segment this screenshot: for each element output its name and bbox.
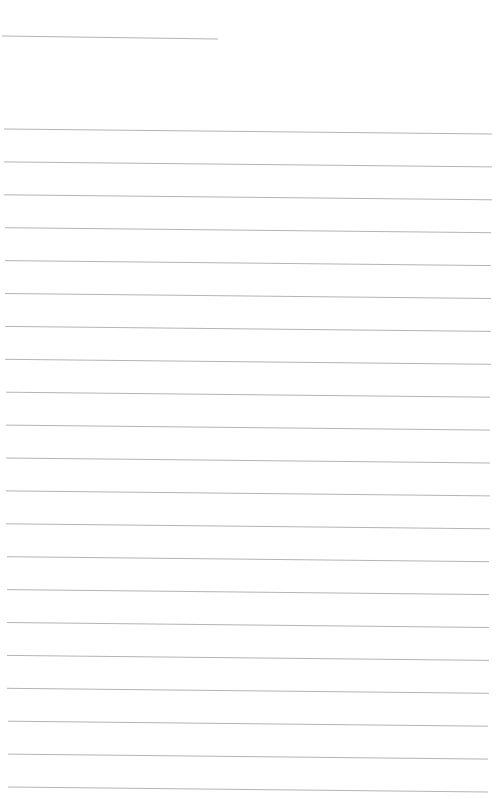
ruled-line bbox=[7, 623, 489, 628]
ruled-line bbox=[4, 162, 492, 167]
ruled-line bbox=[4, 195, 492, 200]
ruled-line bbox=[6, 392, 490, 397]
ruled-line bbox=[6, 491, 490, 496]
ruled-line bbox=[8, 754, 488, 759]
lined-paper-page bbox=[0, 0, 498, 799]
ruled-line bbox=[5, 228, 491, 233]
ruled-line bbox=[5, 261, 491, 266]
ruled-lines bbox=[0, 0, 498, 799]
ruled-line bbox=[8, 787, 488, 792]
ruled-line bbox=[6, 524, 490, 529]
ruled-line bbox=[6, 425, 490, 430]
ruled-line bbox=[8, 721, 488, 726]
ruled-line bbox=[5, 326, 491, 331]
ruled-line bbox=[7, 557, 489, 562]
ruled-line bbox=[4, 129, 492, 134]
ruled-line bbox=[5, 359, 491, 364]
ruled-line bbox=[5, 294, 491, 299]
ruled-line bbox=[7, 655, 489, 660]
ruled-line bbox=[6, 458, 490, 463]
ruled-line bbox=[7, 688, 489, 693]
header-line bbox=[2, 36, 218, 39]
ruled-line bbox=[7, 590, 489, 595]
